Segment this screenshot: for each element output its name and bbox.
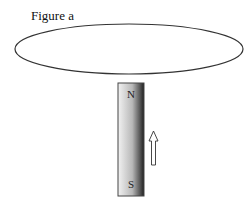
- wire-loop: [15, 24, 243, 74]
- figure-canvas: Figure a N S: [0, 0, 252, 204]
- diagram-svg: [0, 0, 252, 204]
- up-arrow-icon: [149, 131, 158, 165]
- south-pole-label: S: [118, 178, 144, 190]
- north-pole-label: N: [118, 88, 144, 100]
